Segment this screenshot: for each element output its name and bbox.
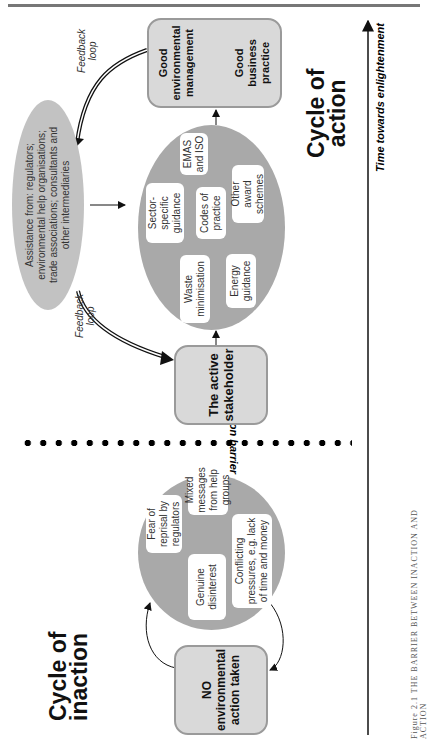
box-line: The active bbox=[206, 353, 221, 417]
tool-card-other: Other award schemes bbox=[232, 165, 264, 223]
no-action-box: NO environmental action taken bbox=[174, 645, 268, 735]
active-stakeholder-box: The active stakeholder bbox=[174, 345, 268, 425]
feedback-loop-label-bottom: Feedback loop bbox=[74, 294, 96, 338]
tool-card-sector: Sector-specific guidance bbox=[146, 183, 184, 243]
box-line: action taken bbox=[228, 655, 242, 725]
box-line: environmental bbox=[214, 649, 228, 731]
tool-card-emas: EMAS and ISO bbox=[180, 133, 208, 175]
assistance-ellipse: Assistance from: regulators; environment… bbox=[12, 100, 84, 310]
time-axis-label: Time towards enlightenment bbox=[374, 23, 386, 203]
good-business-practice: Good business practice bbox=[233, 24, 272, 102]
cycle-of-action-label: Cycle of action bbox=[306, 69, 348, 158]
tool-card-energy: Energy guidance bbox=[226, 254, 256, 308]
box-line: NO bbox=[200, 681, 214, 699]
assistance-text: Assistance from: regulators; environment… bbox=[24, 120, 72, 290]
good-environmental-management: Good environmental management bbox=[157, 24, 196, 102]
barrier-card-conflicting: Conflicting pressures, e.g. lack of time… bbox=[232, 514, 272, 608]
barrier-card-fear: Fear of reprisal by regulators bbox=[146, 495, 182, 553]
cycle-of-inaction-label: Cycle of inaction bbox=[48, 632, 90, 721]
box-line: stakeholder bbox=[221, 349, 236, 422]
feedback-loop-label-top: Feedback loop bbox=[76, 29, 98, 73]
inaction-arc-down bbox=[270, 603, 283, 670]
action-barrier-dots bbox=[20, 439, 352, 447]
barrier-card-disinterest: Genuine disinterest bbox=[188, 554, 226, 620]
figure-caption: Figure 2.1 THE BARRIER BETWEEN INACTION … bbox=[410, 477, 428, 739]
barrier-card-mixed: Mixed messages from help groups bbox=[188, 465, 228, 515]
tool-card-codes: Codes of practice bbox=[196, 187, 226, 239]
label-line: action bbox=[327, 69, 348, 158]
outcome-box: Good environmental management Good busin… bbox=[147, 18, 282, 108]
tool-card-waste: Waste minimisation bbox=[180, 255, 210, 323]
label-line: inaction bbox=[69, 632, 90, 721]
